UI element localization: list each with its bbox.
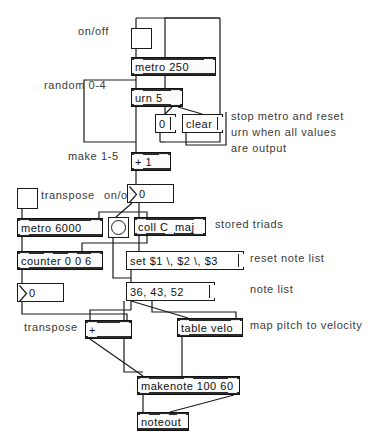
comment-map-pitch-vel: map pitch to velocity (250, 318, 362, 332)
comment-reset-note-list: reset note list (250, 251, 324, 265)
toggle-metro-onoff[interactable] (131, 28, 152, 49)
comment-stored-triads: stored triads (215, 217, 283, 231)
number-box-transpose[interactable]: 0 (17, 283, 64, 302)
comment-stop-metro-3: are output (231, 141, 287, 155)
number-box-arrow-icon (129, 186, 138, 203)
pd-patch-canvas: on/off random 0-4 stop metro and reset u… (0, 0, 375, 446)
message-set-triad[interactable]: set $1 \, $2 \, $3 (126, 251, 244, 270)
number-box-urn-output[interactable]: 0 (127, 184, 174, 203)
comment-transpose-bottom: transpose (24, 320, 78, 334)
cord-makenote-to-noteout-right (170, 395, 234, 412)
comment-make-1-5: make 1-5 (68, 149, 119, 163)
cord-urn-right-to-zero (165, 107, 172, 114)
bang-circle-icon (111, 220, 126, 235)
object-table-velo[interactable]: table velo (177, 318, 243, 337)
message-clear[interactable]: clear (182, 114, 223, 133)
cord-number-to-bang (116, 203, 132, 217)
object-noteout-label: noteout (141, 416, 181, 428)
object-makenote[interactable]: makenote 100 60 (137, 376, 240, 395)
object-metro-250-label: metro 250 (135, 61, 189, 73)
message-set-triad-label: set $1 \, $2 \, $3 (130, 255, 218, 267)
object-makenote-label: makenote 100 60 (141, 380, 234, 392)
object-counter-label: counter 0 0 6 (21, 255, 92, 267)
bang-coll-trigger[interactable] (108, 217, 129, 238)
comment-on-off-top: on/off (78, 24, 109, 38)
object-metro-6000[interactable]: metro 6000 (17, 218, 103, 237)
object-noteout[interactable]: noteout (137, 412, 189, 431)
message-note-list[interactable]: 36, 43, 52 (126, 282, 215, 301)
object-counter[interactable]: counter 0 0 6 (17, 251, 103, 270)
comment-random-0-4: random 0-4 (44, 78, 106, 92)
cord-urn-right-to-clear (178, 107, 202, 114)
comment-transpose-top: transpose (41, 188, 95, 202)
cord-notes-right-route (152, 301, 236, 318)
object-metro-250[interactable]: metro 250 (131, 57, 216, 76)
object-urn-5[interactable]: urn 5 (131, 88, 183, 107)
object-plus[interactable]: + (85, 320, 132, 339)
object-metro-6000-label: metro 6000 (21, 222, 82, 234)
object-coll-cmaj[interactable]: coll C_maj (134, 217, 206, 236)
toggle-transpose-onoff[interactable] (17, 188, 38, 209)
number-box-arrow-icon (19, 285, 28, 302)
message-clear-label: clear (186, 118, 212, 130)
comment-stop-metro-2: urn when all values (231, 125, 337, 139)
object-plus-1[interactable]: + 1 (131, 152, 171, 171)
number-box-transpose-value: 0 (29, 287, 36, 299)
comment-note-list: note list (250, 282, 293, 296)
message-note-list-label: 36, 43, 52 (130, 286, 184, 298)
cord-plus-to-makenote (90, 339, 143, 376)
comment-stop-metro-1: stop metro and reset (231, 109, 344, 123)
number-box-urn-output-value: 0 (139, 188, 146, 200)
message-zero-label: 0 (159, 118, 166, 130)
message-zero[interactable]: 0 (155, 114, 176, 133)
cord-notes-to-plus-path (90, 310, 131, 320)
cord-notes-to-tablevelo (131, 301, 188, 318)
cord-transpose-to-plus (22, 302, 127, 320)
